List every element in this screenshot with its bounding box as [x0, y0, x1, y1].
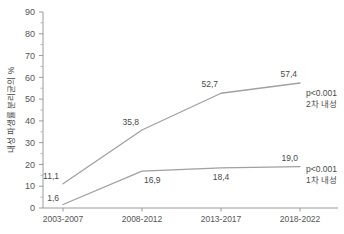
y-axis-ticks: 0102030405060708090 — [25, 7, 43, 213]
data-point-label: 19,0 — [281, 153, 298, 163]
y-tick-label: 80 — [25, 29, 35, 39]
y-tick-label: 60 — [25, 73, 35, 83]
y-tick-label: 10 — [25, 181, 35, 191]
data-point-label: 57,4 — [280, 69, 297, 79]
x-tick-label: 2018-2022 — [280, 214, 321, 224]
x-tick-label: 2003-2007 — [43, 214, 84, 224]
annotation-primary: p<0.001 1차 내성 — [306, 164, 337, 185]
data-point-label: 52,7 — [201, 79, 218, 89]
x-tick-label: 2013-2017 — [201, 214, 242, 224]
line-chart: 내성 파생률 분리균의 % 0102030405060708090 2003-2… — [0, 0, 344, 234]
x-axis-ticks: 2003-20072008-20122013-20172018-2022 — [43, 208, 321, 224]
x-tick-label: 2008-2012 — [122, 214, 163, 224]
data-point-label: 16,9 — [144, 175, 161, 185]
y-tick-label: 0 — [30, 203, 35, 213]
y-tick-label: 50 — [25, 94, 35, 104]
series-lines — [63, 83, 300, 205]
y-tick-label: 20 — [25, 160, 35, 170]
y-tick-label: 70 — [25, 51, 35, 61]
series-line-secondary — [63, 83, 300, 184]
data-point-label: 1,6 — [47, 193, 59, 203]
data-point-label: 11,1 — [43, 171, 59, 181]
y-tick-label: 90 — [25, 7, 35, 17]
data-point-label: 35,8 — [122, 117, 139, 127]
annotation-secondary-label: 2차 내성 — [306, 99, 337, 109]
y-tick-label: 40 — [25, 116, 35, 126]
annotation-primary-label: 1차 내성 — [306, 175, 337, 185]
annotation-secondary-pvalue: p<0.001 — [306, 88, 337, 98]
data-point-labels: 11,135,852,757,41,616,918,419,0 — [43, 69, 298, 203]
series-line-primary — [63, 167, 300, 205]
annotation-primary-pvalue: p<0.001 — [306, 164, 337, 174]
y-axis-label: 내성 파생률 분리균의 % — [6, 66, 16, 153]
data-point-label: 18,4 — [213, 172, 230, 182]
y-tick-label: 30 — [25, 138, 35, 148]
chart-svg: 내성 파생률 분리균의 % 0102030405060708090 2003-2… — [0, 0, 344, 234]
axes — [43, 12, 338, 208]
annotation-secondary: p<0.001 2차 내성 — [306, 88, 337, 109]
